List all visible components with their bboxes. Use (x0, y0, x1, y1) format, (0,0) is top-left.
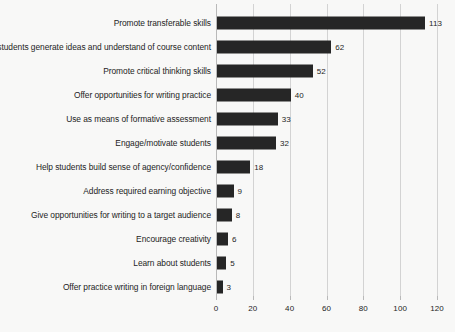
bar-row: Engage/motivate students 32 (216, 131, 437, 155)
bar (217, 137, 276, 150)
category-label: Use as means of formative assessment (66, 114, 211, 124)
bar-row: Learn about students 5 (216, 251, 437, 275)
x-tick-label: 40 (285, 304, 294, 313)
bar (217, 65, 313, 78)
bar-value-label: 113 (429, 19, 442, 28)
bar-row: Offer practice writing in foreign langua… (216, 275, 437, 299)
bar-row: Promote critical thinking skills 52 (216, 59, 437, 83)
bar-value-label: 32 (280, 139, 289, 148)
x-tick-label: 20 (248, 304, 257, 313)
bar-value-label: 5 (230, 259, 235, 268)
bar (217, 17, 425, 30)
category-label: Address required earning objective (83, 186, 211, 196)
category-label: Learn about students (133, 258, 211, 268)
bar-value-label: 40 (295, 91, 304, 100)
category-label: Engage/motivate students (115, 138, 211, 148)
bar-row: Address required earning objective 9 (216, 179, 437, 203)
bar-value-label: 3 (227, 283, 232, 292)
bar-row: Offer opportunities for writing practice… (216, 83, 437, 107)
bar-row: Help students generate ideas and underst… (216, 35, 437, 59)
x-tick-label: 60 (322, 304, 331, 313)
plot-area: 0 20 40 60 80 100 120 Promote transferab… (216, 4, 437, 296)
bar-value-label: 9 (238, 187, 243, 196)
x-tick-label: 80 (359, 304, 368, 313)
gridline-120 (437, 4, 438, 296)
bar-value-label: 6 (232, 235, 237, 244)
bar-value-label: 52 (317, 67, 326, 76)
category-label: Offer practice writing in foreign langua… (63, 282, 211, 292)
bar (217, 257, 226, 270)
bar-row: Encourage creativity 6 (216, 227, 437, 251)
category-label: Help students build sense of agency/conf… (36, 162, 211, 172)
category-label: Give opportunities for writing to a targ… (31, 210, 211, 220)
category-label: Encourage creativity (136, 234, 211, 244)
bar (217, 161, 250, 174)
bar (217, 185, 234, 198)
bar-value-label: 8 (236, 211, 241, 220)
bar-row: Give opportunities for writing to a targ… (216, 203, 437, 227)
bar (217, 89, 291, 102)
bar (217, 113, 278, 126)
bar-row: Use as means of formative assessment 33 (216, 107, 437, 131)
x-tick-label: 100 (393, 304, 407, 313)
bar-value-label: 62 (335, 43, 344, 52)
horizontal-bar-chart: 0 20 40 60 80 100 120 Promote transferab… (0, 0, 455, 332)
bar (217, 41, 331, 54)
x-tick-label: 0 (214, 304, 219, 313)
bar-value-label: 18 (254, 163, 263, 172)
category-label: Offer opportunities for writing practice (74, 90, 211, 100)
bar-row: Help students build sense of agency/conf… (216, 155, 437, 179)
category-label: Promote critical thinking skills (103, 66, 211, 76)
category-label: Promote transferable skills (114, 18, 211, 28)
bar (217, 281, 223, 294)
bar-value-label: 33 (282, 115, 291, 124)
tick-mark-120 (437, 296, 438, 300)
bar (217, 233, 228, 246)
bar-row: Promote transferable skills 113 (216, 11, 437, 35)
bar (217, 209, 232, 222)
category-label: Help students generate ideas and underst… (0, 42, 211, 52)
x-tick-label: 120 (430, 304, 444, 313)
